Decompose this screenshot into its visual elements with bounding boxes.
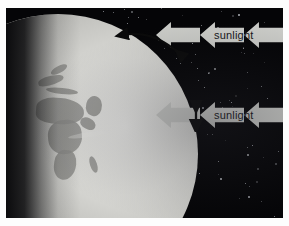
space-background: sunlight sunlight [6,8,283,218]
star [103,11,104,12]
star [278,151,279,152]
curved-double-arrow [110,20,196,62]
sunlight-label-upper: sunlight [214,22,254,48]
star [113,12,114,13]
star [263,218,264,219]
star [263,157,264,158]
star [180,63,181,64]
star [207,134,208,135]
star [229,100,230,101]
star [239,198,240,199]
star [199,173,200,174]
star [261,201,262,202]
star [214,68,216,70]
star [243,48,244,49]
star [220,178,222,180]
star [247,154,249,156]
star [247,147,248,148]
vertical-double-arrow [187,100,205,132]
star [208,72,210,74]
star [241,52,242,53]
star [218,161,219,162]
star [274,216,275,217]
star [198,80,199,81]
star [138,17,139,18]
star [161,8,162,9]
star [247,88,248,89]
star [182,15,183,16]
star [131,11,133,13]
star [232,15,234,17]
star [252,145,253,146]
star [257,168,259,170]
star [191,62,192,63]
sunlight-band-lower: sunlight [156,102,283,128]
star [267,98,268,99]
star [235,95,237,97]
star [244,53,245,54]
star [204,87,205,88]
star [212,134,213,135]
star [225,140,226,141]
star [249,186,250,187]
star [128,17,129,18]
star [124,9,125,10]
star [247,72,248,73]
star [218,174,219,175]
sunlight-earth-diagram: sunlight sunlight [0,0,289,226]
star [275,163,277,165]
star [264,62,265,63]
star [221,11,222,12]
star [256,181,258,183]
star [238,14,240,16]
star [248,196,250,198]
sunlight-label-lower: sunlight [214,102,254,128]
star [245,183,246,184]
star [253,53,254,54]
star [261,86,262,87]
star [197,68,198,69]
